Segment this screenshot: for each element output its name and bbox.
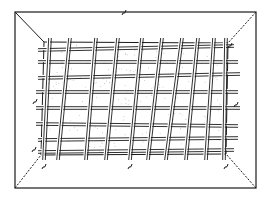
corner-bevel-tl bbox=[15, 12, 44, 42]
vertical-rod-5-edge-a bbox=[129, 38, 141, 160]
stipple-dot bbox=[151, 95, 152, 96]
stipple-dot bbox=[125, 103, 126, 104]
stipple-dot bbox=[141, 145, 142, 146]
stipple-dot bbox=[96, 82, 97, 83]
stipple-dot bbox=[125, 134, 126, 135]
stipple-dot bbox=[108, 69, 109, 70]
stipple-dot bbox=[142, 133, 143, 134]
stipple-dot bbox=[146, 97, 147, 98]
reference-mark-8 bbox=[224, 164, 228, 169]
stipple-dot bbox=[159, 87, 160, 88]
stipple-dot bbox=[164, 98, 165, 99]
stipple-dot bbox=[205, 116, 206, 117]
stipple-dot bbox=[180, 113, 181, 114]
stipple-dot bbox=[101, 142, 102, 143]
stipple-dot bbox=[109, 82, 110, 83]
stipple-dot bbox=[104, 83, 105, 84]
stipple-dot bbox=[127, 54, 128, 55]
stipple-dot bbox=[94, 83, 95, 84]
stipple-dot bbox=[168, 114, 169, 115]
stipple-dot bbox=[69, 129, 70, 130]
reference-mark-7 bbox=[128, 164, 132, 169]
stipple-dot bbox=[94, 147, 95, 148]
stipple-dot bbox=[185, 119, 186, 120]
stipple-dot bbox=[204, 122, 205, 123]
stipple-dot bbox=[69, 86, 70, 87]
stipple-dot bbox=[121, 69, 122, 70]
stipple-dot bbox=[217, 65, 218, 66]
stipple-dot bbox=[125, 54, 126, 55]
stipple-dot bbox=[100, 86, 101, 87]
stipple-dot bbox=[216, 77, 217, 78]
stipple-dot bbox=[97, 128, 98, 129]
stipple-dot bbox=[182, 114, 183, 115]
vertical-rod-6-edge-a bbox=[147, 38, 161, 160]
stipple-dot bbox=[56, 82, 57, 83]
stipple-dot bbox=[182, 67, 183, 68]
vertical-rods bbox=[43, 38, 228, 160]
stipple-dot bbox=[129, 71, 130, 72]
stipple-dot bbox=[100, 146, 101, 147]
lattice-mat-drawing bbox=[0, 0, 272, 205]
stipple-dot bbox=[125, 98, 126, 99]
stipple-dot bbox=[144, 80, 145, 81]
stipple-dot bbox=[219, 140, 220, 141]
stipple-dot bbox=[74, 127, 75, 128]
stipple-dot bbox=[143, 50, 144, 51]
stipple-dot bbox=[115, 146, 116, 147]
stipple-dot bbox=[205, 81, 206, 82]
reference-mark-6 bbox=[42, 164, 46, 169]
stipple-dot bbox=[73, 80, 74, 81]
stipple-dot bbox=[57, 72, 58, 73]
stipple-dot bbox=[155, 57, 156, 58]
stipple-dot bbox=[89, 146, 90, 147]
stipple-dot bbox=[53, 86, 54, 87]
stipple-dot bbox=[188, 81, 189, 82]
stipple-dot bbox=[217, 100, 218, 101]
stipple-dot bbox=[106, 80, 107, 81]
stipple-dot bbox=[204, 116, 205, 117]
stipple-dot bbox=[174, 113, 175, 114]
stipple-dot bbox=[77, 130, 78, 131]
stipple-dot bbox=[70, 120, 71, 121]
vertical-rod-6-edge-b bbox=[149, 38, 163, 160]
stipple-dot bbox=[125, 53, 126, 54]
stipple-dot bbox=[159, 84, 160, 85]
stipple-dot bbox=[71, 69, 72, 70]
stipple-dot bbox=[143, 141, 144, 142]
stipple-dot bbox=[82, 101, 83, 102]
stipple-dot bbox=[140, 101, 141, 102]
stipple-dot bbox=[180, 128, 181, 129]
stipple-dot bbox=[115, 129, 116, 130]
stipple-dot bbox=[134, 50, 135, 51]
stipple-dot bbox=[68, 79, 69, 80]
vertical-rod-7-edge-a bbox=[165, 38, 181, 160]
stipple-dot bbox=[95, 127, 96, 128]
stipple-dot bbox=[164, 53, 165, 54]
reference-mark-5 bbox=[32, 147, 36, 152]
stipple-dot bbox=[70, 79, 71, 80]
stipple-dot bbox=[160, 133, 161, 134]
stipple-dot bbox=[114, 143, 115, 144]
stipple-dot bbox=[134, 55, 135, 56]
vertical-rod-8-edge-a bbox=[185, 38, 197, 160]
vertical-rod-2-edge-a bbox=[57, 38, 69, 160]
stipple-dot bbox=[62, 67, 63, 68]
reference-mark-3 bbox=[33, 99, 37, 104]
stipple-dot bbox=[124, 116, 125, 117]
stipple-dot bbox=[118, 56, 119, 57]
patent-figure bbox=[0, 0, 272, 205]
stipple-dot bbox=[217, 79, 218, 80]
stipple-dot bbox=[130, 70, 131, 71]
corner-bevel-bl bbox=[15, 155, 41, 188]
stipple-dot bbox=[133, 71, 134, 72]
vertical-rod-3-edge-a bbox=[85, 38, 95, 160]
stipple-dot bbox=[125, 99, 126, 100]
stipple-dot bbox=[125, 85, 126, 86]
stipple-dot bbox=[85, 87, 86, 88]
stipple-dot bbox=[79, 115, 80, 116]
stipple-dot bbox=[61, 52, 62, 53]
stipple-dot bbox=[148, 68, 149, 69]
stipple-dot bbox=[126, 69, 127, 70]
stipple-dot bbox=[121, 103, 122, 104]
